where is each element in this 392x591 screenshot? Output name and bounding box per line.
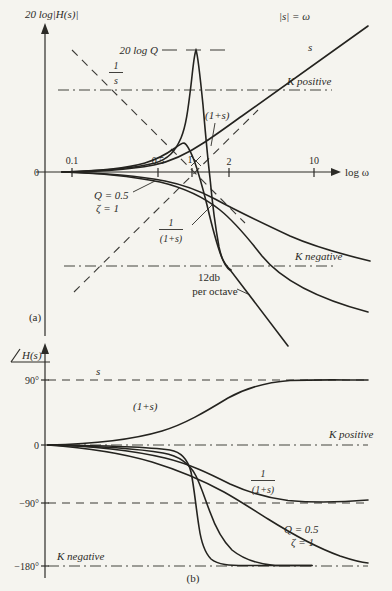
a-y-axis-title: 20 log|H(s)| [25, 8, 78, 21]
a-tick-2: 2 [227, 156, 232, 167]
a-s-asymptote [74, 110, 258, 292]
a-q-label: Q = 0.5 [94, 189, 129, 201]
svg-text:1: 1 [169, 217, 174, 228]
b-inv-one-plus-s-label: 1 (1+s) [251, 468, 275, 496]
b-tick-m90: −90° [19, 498, 39, 509]
a-s-magnitude-label: |s| = ω [279, 10, 310, 22]
a-caption: (a) [29, 311, 42, 324]
a-rolloff-label-1: 12db [198, 271, 221, 283]
a-y-axis-arrow-icon [41, 23, 49, 34]
a-rolloff-leader [237, 289, 250, 295]
a-origin-label: 0 [34, 167, 39, 178]
a-one-plus-s-leader [211, 123, 215, 146]
a-tick-10: 10 [309, 155, 319, 166]
svg-text:s: s [114, 75, 118, 86]
b-tick-m180: −180° [14, 561, 39, 572]
b-y-axis-arrow-icon [41, 343, 49, 354]
b-one-plus-s-label: (1+s) [133, 400, 158, 413]
bode-plot-figure: 0.1 0.5 1 2 10 0 20 log|H(s)| log ω K po… [0, 0, 392, 591]
a-zeta-label: ζ = 1 [96, 202, 119, 215]
a-q-leader [133, 181, 155, 192]
a-curve-inv-one-plus-s [62, 172, 370, 261]
svg-text:1: 1 [261, 468, 266, 479]
a-peak-level-label: 20 log Q [120, 44, 159, 56]
a-curve-one-plus-s-and-s [62, 26, 368, 172]
a-k-positive-label: K positive [286, 75, 331, 87]
b-k-positive-label: K positive [328, 428, 373, 440]
a-x-axis-arrow-icon [331, 168, 341, 176]
b-curve-one-plus-s [48, 380, 368, 445]
b-tick-90: 90° [25, 375, 39, 386]
a-x-axis-title: log ω [345, 166, 369, 178]
a-rolloff-label-2: per octave [192, 285, 238, 297]
figure-canvas: 0.1 0.5 1 2 10 0 20 log|H(s)| log ω K po… [0, 0, 392, 591]
b-k-negative-label: K negative [56, 550, 104, 562]
a-one-plus-s-label: (1+s) [205, 109, 230, 122]
b-curve-inv-one-plus-s [48, 445, 368, 502]
b-s-label: s [96, 365, 100, 377]
a-tick-0p1: 0.1 [66, 155, 79, 166]
b-q-label: Q = 0.5 [284, 523, 319, 535]
a-s-label: s [308, 41, 312, 53]
a-inv-one-plus-s-label: 1 (1+s) [159, 217, 183, 245]
a-inv-s-label: 1 s [109, 60, 123, 86]
b-angle-symbol-icon [11, 349, 20, 362]
svg-text:(1+s): (1+s) [160, 233, 183, 245]
svg-text:(1+s): (1+s) [252, 484, 275, 496]
phase-plot: H(s) 90° 0 −90° −180° s K positive K neg… [11, 343, 373, 585]
b-curve-zeta-1 [48, 445, 368, 563]
svg-text:H(s): H(s) [21, 349, 42, 362]
b-tick-0: 0 [34, 440, 39, 451]
svg-text:1: 1 [114, 60, 119, 71]
b-zeta-label: ζ = 1 [291, 536, 314, 549]
magnitude-plot: 0.1 0.5 1 2 10 0 20 log|H(s)| log ω K po… [25, 8, 370, 346]
b-caption: (b) [187, 572, 200, 585]
